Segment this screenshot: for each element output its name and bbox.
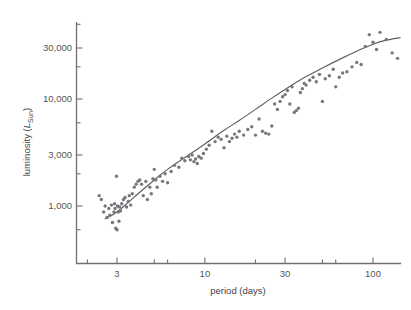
- data-point: [133, 185, 136, 188]
- data-point: [110, 203, 113, 206]
- data-point: [235, 135, 238, 138]
- data-point: [278, 100, 281, 103]
- data-point: [222, 146, 225, 149]
- data-point: [128, 194, 131, 197]
- data-point: [190, 153, 193, 156]
- data-point: [290, 85, 293, 88]
- data-point: [119, 209, 122, 212]
- data-point: [196, 162, 199, 165]
- data-point: [153, 168, 156, 171]
- data-point: [350, 65, 353, 68]
- data-point: [254, 133, 257, 136]
- data-point: [144, 180, 147, 183]
- data-point: [301, 87, 304, 90]
- data-point: [371, 40, 374, 43]
- data-point: [129, 203, 132, 206]
- data-point: [115, 174, 118, 177]
- data-point: [364, 45, 367, 48]
- data-point: [246, 128, 249, 131]
- y-axis-title-subscript: Sun: [27, 111, 34, 123]
- data-point: [288, 102, 291, 105]
- data-point: [385, 38, 388, 41]
- data-point: [390, 51, 393, 54]
- data-point: [103, 204, 106, 207]
- data-point: [105, 216, 108, 219]
- data-point: [304, 83, 307, 86]
- data-point: [230, 137, 233, 140]
- x-tick-label: 30: [280, 268, 291, 279]
- data-point: [113, 207, 116, 210]
- data-point: [125, 205, 128, 208]
- data-point: [140, 182, 143, 185]
- data-point: [205, 147, 208, 150]
- data-point: [267, 132, 270, 135]
- data-point: [257, 117, 260, 120]
- data-point: [308, 79, 311, 82]
- x-axis-title: period (days): [210, 285, 265, 296]
- data-point: [233, 132, 236, 135]
- data-point: [134, 182, 137, 185]
- data-point: [270, 124, 273, 127]
- x-tick-label: 3: [114, 268, 119, 279]
- data-point: [250, 125, 253, 128]
- data-point: [138, 178, 141, 181]
- data-point: [207, 144, 210, 147]
- data-point: [189, 158, 192, 161]
- data-point: [318, 73, 321, 76]
- data-point: [154, 178, 157, 181]
- y-axis-title-suffix: ): [21, 108, 32, 111]
- data-point: [219, 138, 222, 141]
- data-point: [183, 159, 186, 162]
- data-point: [276, 108, 279, 111]
- y-tick-label: 10,000: [43, 93, 72, 104]
- data-point: [117, 220, 120, 223]
- data-point: [368, 33, 371, 36]
- y-axis-title-prefix: luminosity (: [21, 127, 32, 176]
- x-tick-label: 10: [200, 268, 211, 279]
- data-point: [311, 76, 314, 79]
- data-point: [315, 80, 318, 83]
- data-point: [161, 180, 164, 183]
- x-tick-label: 100: [365, 268, 381, 279]
- data-point: [112, 210, 115, 213]
- data-point: [324, 77, 327, 80]
- data-point: [148, 185, 151, 188]
- data-point: [238, 130, 241, 133]
- data-point: [194, 157, 197, 160]
- data-point: [173, 164, 176, 167]
- data-point: [142, 194, 145, 197]
- data-point: [118, 205, 121, 208]
- data-point: [111, 221, 114, 224]
- data-point: [297, 107, 300, 110]
- data-point: [108, 214, 111, 217]
- data-point: [127, 200, 130, 203]
- data-point: [321, 100, 324, 103]
- data-point: [100, 198, 103, 201]
- data-point: [131, 192, 134, 195]
- data-point: [102, 210, 105, 213]
- data-point: [283, 93, 286, 96]
- data-point: [202, 152, 205, 155]
- data-point: [345, 70, 348, 73]
- data-point: [169, 170, 172, 173]
- data-point: [355, 61, 358, 64]
- data-point: [155, 185, 158, 188]
- data-point: [242, 133, 245, 136]
- y-tick-label: 30,000: [43, 42, 72, 53]
- data-point: [328, 74, 331, 77]
- data-point: [359, 63, 362, 66]
- y-tick-label: 1,000: [48, 200, 72, 211]
- data-point: [150, 192, 153, 195]
- data-point: [341, 71, 344, 74]
- data-point: [217, 135, 220, 138]
- data-point: [375, 48, 378, 51]
- chart-figure: 1,0003,00010,00030,000 31030100 period (…: [0, 0, 411, 310]
- data-point: [261, 130, 264, 133]
- data-point: [115, 228, 118, 231]
- data-point: [120, 202, 123, 205]
- data-point: [107, 207, 110, 210]
- data-point: [199, 156, 202, 159]
- data-point: [378, 31, 381, 34]
- data-point: [264, 131, 267, 134]
- data-point: [177, 166, 180, 169]
